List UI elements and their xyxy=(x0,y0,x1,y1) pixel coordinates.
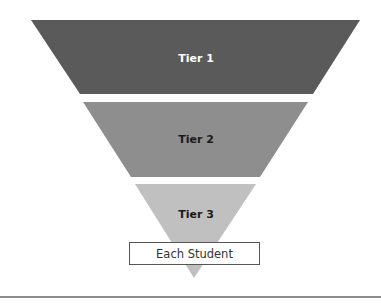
inverted-pyramid-diagram: Tier 1 Tier 2 Tier 3 Each Student xyxy=(0,0,381,303)
tier-2-label: Tier 2 xyxy=(178,133,214,146)
each-student-label: Each Student xyxy=(156,247,233,261)
tier-3-label: Tier 3 xyxy=(178,208,214,221)
tier-1-label: Tier 1 xyxy=(178,52,214,65)
